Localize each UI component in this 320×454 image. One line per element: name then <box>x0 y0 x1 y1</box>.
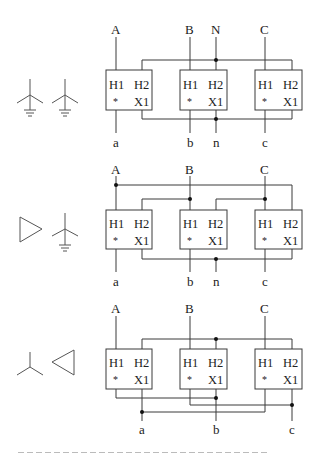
cropped-caption <box>18 450 268 454</box>
polarity-mark: * <box>113 96 118 107</box>
h2-label: H2 <box>208 356 223 370</box>
panel-delta-wye: H1 H2 X1 H1 H2 X1 H1 H2 X1 * * * A B C a… <box>20 162 302 289</box>
label-A: A <box>111 162 121 177</box>
h1-label: H1 <box>183 356 198 370</box>
label-N: N <box>211 22 221 37</box>
label-C: C <box>260 301 269 316</box>
label-A: A <box>111 301 121 316</box>
grounded-wye-icon <box>17 79 43 116</box>
x1-label: X1 <box>283 234 298 248</box>
wye-icon <box>17 352 43 375</box>
h2-label: H2 <box>283 78 298 92</box>
label-c: c <box>262 274 268 289</box>
x1-label: X1 <box>134 373 149 387</box>
x1-label: X1 <box>208 95 223 109</box>
label-B: B <box>185 22 194 37</box>
grounded-wye-icon <box>52 213 78 251</box>
x1-label: X1 <box>134 95 149 109</box>
label-a: a <box>113 274 119 289</box>
label-c: c <box>262 135 268 150</box>
x1-label: X1 <box>208 234 223 248</box>
h1-label: H1 <box>109 78 124 92</box>
polarity-mark: * <box>187 235 192 246</box>
h1-label: H1 <box>183 217 198 231</box>
h2-label: H2 <box>208 217 223 231</box>
transformer-diagrams: H1 H2 X1 H1 H2 X1 H1 H2 X1 * * * A B N C… <box>0 0 320 454</box>
label-A: A <box>111 22 121 37</box>
polarity-mark: * <box>187 96 192 107</box>
polarity-mark: * <box>262 235 267 246</box>
panel-wye-wye: H1 H2 X1 H1 H2 X1 H1 H2 X1 * * * A B N C… <box>17 22 302 150</box>
h1-label: H1 <box>183 78 198 92</box>
polarity-mark: * <box>262 374 267 385</box>
h1-label: H1 <box>258 78 273 92</box>
h2-label: H2 <box>134 356 149 370</box>
h1-label: H1 <box>258 217 273 231</box>
h1-label: H1 <box>109 217 124 231</box>
polarity-mark: * <box>113 374 118 385</box>
label-b: b <box>213 422 220 437</box>
panel-wye-delta: H1 H2 X1 H1 H2 X1 H1 H2 X1 * * * A B C a… <box>17 301 302 437</box>
polarity-mark: * <box>187 374 192 385</box>
label-a: a <box>139 422 145 437</box>
polarity-mark: * <box>262 96 267 107</box>
label-n: n <box>213 135 220 150</box>
polarity-mark: * <box>113 235 118 246</box>
h2-label: H2 <box>208 78 223 92</box>
label-a: a <box>113 135 119 150</box>
x1-label: X1 <box>134 234 149 248</box>
label-b: b <box>187 135 194 150</box>
grounded-wye-icon <box>52 79 78 116</box>
x1-label: X1 <box>208 373 223 387</box>
h2-label: H2 <box>283 356 298 370</box>
h2-label: H2 <box>134 217 149 231</box>
label-B: B <box>185 301 194 316</box>
label-b: b <box>187 274 194 289</box>
h2-label: H2 <box>134 78 149 92</box>
delta-icon <box>52 350 74 375</box>
label-B: B <box>185 162 194 177</box>
label-C: C <box>260 22 269 37</box>
delta-icon <box>20 217 42 242</box>
x1-label: X1 <box>283 373 298 387</box>
h2-label: H2 <box>283 217 298 231</box>
label-n: n <box>213 274 220 289</box>
h1-label: H1 <box>258 356 273 370</box>
h1-label: H1 <box>109 356 124 370</box>
x1-label: X1 <box>283 95 298 109</box>
label-C: C <box>260 162 269 177</box>
label-c: c <box>289 422 295 437</box>
